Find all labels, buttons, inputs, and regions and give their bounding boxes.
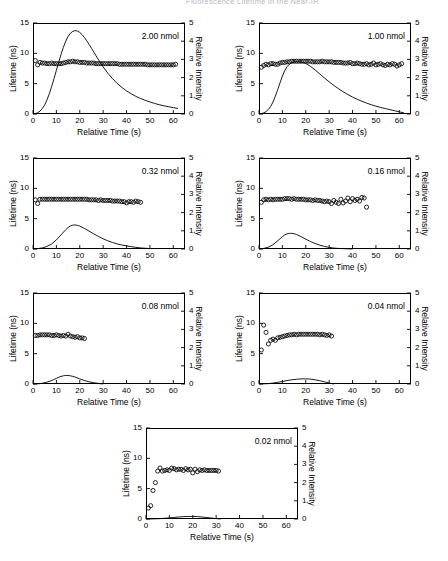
running-head: Fluorescence Lifetime in the Near-IR bbox=[0, 0, 448, 9]
x-tick-label: 40 bbox=[341, 386, 365, 395]
x-tick-label: 40 bbox=[341, 116, 365, 125]
panel-annotation: 0.04 nmol bbox=[343, 301, 405, 311]
x-tick-label: 60 bbox=[161, 386, 185, 395]
panel-annotation: 2.00 nmol bbox=[117, 31, 179, 41]
y-axis-label-left: Lifetime (ns) bbox=[234, 158, 244, 249]
x-tick-label: 60 bbox=[161, 251, 185, 260]
y-axis-label-right: Relative Intensity bbox=[194, 158, 204, 249]
x-axis-label: Relative Time (s) bbox=[259, 262, 411, 272]
y-axis-label-right: Relative Intensity bbox=[194, 23, 204, 114]
x-tick-label: 60 bbox=[274, 521, 298, 530]
panel-annotation: 0.32 nmol bbox=[117, 166, 179, 176]
x-tick-label: 30 bbox=[317, 251, 341, 260]
x-tick-label: 10 bbox=[270, 251, 294, 260]
x-axis-label: Relative Time (s) bbox=[259, 127, 411, 137]
x-tick-label: 60 bbox=[387, 251, 411, 260]
x-axis-label: Relative Time (s) bbox=[33, 262, 185, 272]
x-tick-label: 10 bbox=[44, 251, 68, 260]
y-axis-label-left: Lifetime (ns) bbox=[234, 23, 244, 114]
x-tick-label: 50 bbox=[251, 521, 275, 530]
y-axis-label-right: Relative Intensity bbox=[194, 293, 204, 384]
panel-annotation: 0.02 nmol bbox=[230, 436, 292, 446]
y-axis-label-right: Relative Intensity bbox=[420, 158, 430, 249]
x-tick-label: 60 bbox=[161, 116, 185, 125]
x-tick-label: 50 bbox=[138, 116, 162, 125]
x-tick-label: 30 bbox=[204, 521, 228, 530]
x-tick-label: 20 bbox=[68, 251, 92, 260]
x-axis-label: Relative Time (s) bbox=[33, 127, 185, 137]
y-axis-label-right: Relative Intensity bbox=[307, 428, 317, 519]
x-tick-label: 20 bbox=[294, 386, 318, 395]
panel-annotation: 0.16 nmol bbox=[343, 166, 405, 176]
x-tick-label: 30 bbox=[91, 116, 115, 125]
x-tick-label: 40 bbox=[115, 116, 139, 125]
panel-annotation: 0.08 nmol bbox=[117, 301, 179, 311]
x-tick-label: 50 bbox=[364, 386, 388, 395]
x-tick-label: 30 bbox=[91, 386, 115, 395]
x-tick-label: 50 bbox=[364, 116, 388, 125]
x-tick-label: 20 bbox=[181, 521, 205, 530]
y-axis-label-left: Lifetime (ns) bbox=[8, 23, 18, 114]
x-axis-label: Relative Time (s) bbox=[146, 532, 298, 542]
panel-annotation: 1.00 nmol bbox=[343, 31, 405, 41]
x-tick-label: 20 bbox=[68, 116, 92, 125]
y-axis-label-right: Relative Intensity bbox=[420, 23, 430, 114]
running-head-text: Fluorescence Lifetime in the Near-IR bbox=[186, 0, 319, 6]
x-tick-label: 20 bbox=[294, 251, 318, 260]
x-tick-label: 20 bbox=[68, 386, 92, 395]
x-tick-label: 40 bbox=[115, 251, 139, 260]
x-tick-label: 50 bbox=[138, 386, 162, 395]
x-tick-label: 40 bbox=[341, 251, 365, 260]
x-tick-label: 10 bbox=[44, 116, 68, 125]
x-axis-label: Relative Time (s) bbox=[33, 397, 185, 407]
y-axis-label-left: Lifetime (ns) bbox=[121, 428, 131, 519]
x-tick-label: 10 bbox=[44, 386, 68, 395]
x-tick-label: 40 bbox=[115, 386, 139, 395]
x-tick-label: 60 bbox=[387, 116, 411, 125]
y-axis-label-left: Lifetime (ns) bbox=[8, 293, 18, 384]
y-axis-label-right: Relative Intensity bbox=[420, 293, 430, 384]
x-tick-label: 10 bbox=[157, 521, 181, 530]
x-tick-label: 30 bbox=[317, 386, 341, 395]
x-tick-label: 30 bbox=[317, 116, 341, 125]
x-tick-label: 20 bbox=[294, 116, 318, 125]
x-tick-label: 10 bbox=[270, 116, 294, 125]
x-axis-label: Relative Time (s) bbox=[259, 397, 411, 407]
y-axis-label-left: Lifetime (ns) bbox=[8, 158, 18, 249]
x-tick-label: 30 bbox=[91, 251, 115, 260]
x-tick-label: 50 bbox=[364, 251, 388, 260]
x-tick-label: 40 bbox=[228, 521, 252, 530]
x-tick-label: 60 bbox=[387, 386, 411, 395]
x-tick-label: 50 bbox=[138, 251, 162, 260]
x-tick-label: 10 bbox=[270, 386, 294, 395]
y-axis-label-left: Lifetime (ns) bbox=[234, 293, 244, 384]
